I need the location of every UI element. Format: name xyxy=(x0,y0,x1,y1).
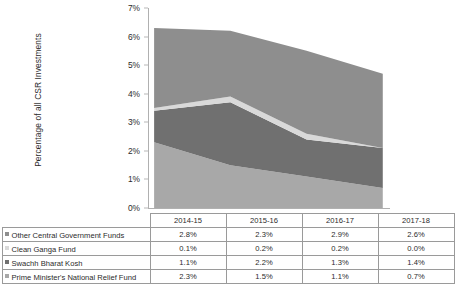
table-cell-value: 2.6% xyxy=(378,228,454,242)
table-body: Other Central Government Funds2.8%2.3%2.… xyxy=(3,228,455,284)
y-axis-tick-mark xyxy=(144,179,148,180)
stacked-area-plot xyxy=(149,8,390,208)
table-cell-value: 0.2% xyxy=(226,242,302,256)
table-cell-value: 1.5% xyxy=(226,270,302,284)
table-column-header: 2015-16 xyxy=(226,214,302,228)
y-axis-tick-mark xyxy=(144,36,148,37)
legend-label: Other Central Government Funds xyxy=(12,230,125,239)
legend-swatch-icon xyxy=(5,274,9,278)
y-axis-tick-label: 0% xyxy=(128,204,140,212)
table-column-header: 2014-15 xyxy=(150,214,226,228)
y-axis-tick-mark xyxy=(144,65,148,66)
legend-item: Other Central Government Funds xyxy=(3,228,151,242)
legend-label: Prime Minister's National Relief Fund xyxy=(12,272,137,281)
table-row: Other Central Government Funds2.8%2.3%2.… xyxy=(3,228,455,242)
legend-label: Swachh Bharat Kosh xyxy=(12,258,83,267)
plot-region: Percentage of all CSR Investments 0%1%2%… xyxy=(0,0,431,215)
table-cell-value: 1.3% xyxy=(302,256,378,270)
table-cell-value: 2.8% xyxy=(150,228,226,242)
table-cell-value: 2.9% xyxy=(302,228,378,242)
table-cell-value: 0.0% xyxy=(378,242,454,256)
y-axis-tick-label: 7% xyxy=(128,4,140,12)
y-axis-tick-mark xyxy=(144,93,148,94)
table-cell-value: 2.3% xyxy=(150,270,226,284)
legend-swatch-icon xyxy=(5,246,9,250)
y-axis-tick-label: 6% xyxy=(128,33,140,41)
table-row: Prime Minister's National Relief Fund2.3… xyxy=(3,270,455,284)
y-axis-tick-label: 2% xyxy=(128,147,140,155)
legend-item: Prime Minister's National Relief Fund xyxy=(3,270,151,284)
data-table: 2014-152015-162016-172017-18 Other Centr… xyxy=(2,213,455,284)
legend-label: Clean Ganga Fund xyxy=(12,244,76,253)
table-header-blank xyxy=(3,214,151,228)
legend-item: Clean Ganga Fund xyxy=(3,242,151,256)
table-row: Swachh Bharat Kosh1.1%2.2%1.3%1.4% xyxy=(3,256,455,270)
y-axis-tick-label: 4% xyxy=(128,90,140,98)
table-cell-value: 0.1% xyxy=(150,242,226,256)
table-row: Clean Ganga Fund0.1%0.2%0.2%0.0% xyxy=(3,242,455,256)
legend-item: Swachh Bharat Kosh xyxy=(3,256,151,270)
y-axis-tick-mark xyxy=(144,208,148,209)
y-axis-title: Percentage of all CSR Investments xyxy=(33,0,43,200)
table-cell-value: 2.3% xyxy=(226,228,302,242)
legend-swatch-icon xyxy=(5,260,9,264)
y-axis-tick-label: 5% xyxy=(128,61,140,69)
data-table-legend: 2014-152015-162016-172017-18 Other Centr… xyxy=(2,213,429,284)
y-axis-tick-label: 3% xyxy=(128,118,140,126)
legend-swatch-icon xyxy=(5,232,9,236)
y-axis-tick-mark xyxy=(144,150,148,151)
table-cell-value: 1.4% xyxy=(378,256,454,270)
y-axis-tick-label: 1% xyxy=(128,175,140,183)
x-axis-line xyxy=(148,208,390,209)
table-cell-value: 2.2% xyxy=(226,256,302,270)
table-cell-value: 0.2% xyxy=(302,242,378,256)
y-axis-tick-labels: 0%1%2%3%4%5%6%7% xyxy=(114,8,144,208)
table-header-row: 2014-152015-162016-172017-18 xyxy=(3,214,455,228)
y-axis-tick-mark xyxy=(144,122,148,123)
table-cell-value: 1.1% xyxy=(150,256,226,270)
table-cell-value: 0.7% xyxy=(378,270,454,284)
table-column-header: 2016-17 xyxy=(302,214,378,228)
table-column-header: 2017-18 xyxy=(378,214,454,228)
y-axis-tick-mark xyxy=(144,8,148,9)
table-cell-value: 1.1% xyxy=(302,270,378,284)
